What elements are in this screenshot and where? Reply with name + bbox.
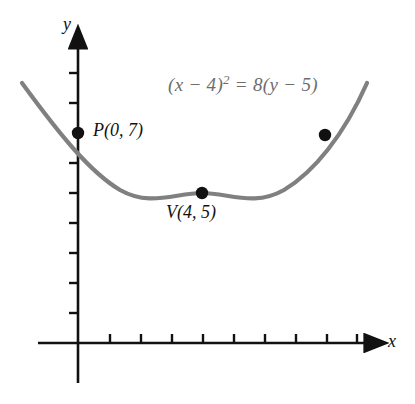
x-axis-ticks [110,334,357,343]
y-axis-ticks [69,73,78,313]
point-marker-p [72,127,84,139]
point-marker-unlabeled [319,129,331,141]
point-p-annotation: P(0, 7) [93,121,143,139]
x-axis-label: x [388,332,396,350]
equation-exponent: 2 [223,72,230,87]
equation-rest: = 8(y − 5) [230,74,318,95]
parabola-figure: (x − 4)2 = 8(y − 5) P(0, 7) V(4, 5) y x [0,0,415,404]
equation-base: (x − 4) [168,74,223,95]
x-axis-group [38,334,366,343]
point-marker-vertex [196,187,208,199]
y-axis-label: y [63,15,71,33]
y-axis-group [69,47,78,383]
vertex-annotation: V(4, 5) [166,203,216,221]
equation-annotation: (x − 4)2 = 8(y − 5) [168,74,318,94]
parabola-curve [22,83,367,198]
